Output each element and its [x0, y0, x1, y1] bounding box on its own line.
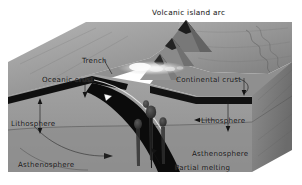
eruption-plume-glow	[118, 61, 186, 75]
oceanic-crust-label: Oceanic crust	[42, 76, 94, 83]
continental-crust-label: Continental crust	[176, 76, 241, 83]
figure-title: Volcanic island arc	[152, 9, 225, 16]
block-diagram-illustration	[0, 0, 302, 185]
partial-melting-label: Partial melting	[175, 164, 230, 171]
lithosphere-right-label: Lithosphere	[201, 117, 245, 124]
trench-label: Trench	[82, 57, 107, 64]
asthenosphere-left-label: Asthenosphere	[18, 161, 74, 168]
diagram-canvas: Volcanic island arc Trench Oceanic crust…	[0, 0, 302, 185]
lithosphere-left-label: Lithosphere	[11, 120, 55, 127]
asthenosphere-right-label: Asthenosphere	[192, 150, 248, 157]
